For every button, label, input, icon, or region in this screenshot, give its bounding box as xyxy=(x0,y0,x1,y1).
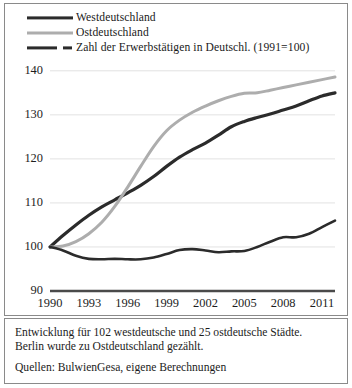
y-axis-tick-label: 120 xyxy=(13,151,43,166)
y-axis-tick-label: 110 xyxy=(13,195,43,210)
legend-label-erwerb: Zahl der Erwerbstätigen in Deutschl. (19… xyxy=(76,41,309,54)
figure-root: 9010011012013014019901993199619992002200… xyxy=(0,0,352,388)
chart-legend: Westdeutschland Ostdeutschland Zahl der … xyxy=(27,10,345,56)
chart-panel: 9010011012013014019901993199619992002200… xyxy=(4,3,348,316)
x-axis-tick-label: 2002 xyxy=(186,296,224,311)
x-axis-tick-label: 2008 xyxy=(264,296,302,311)
x-axis-tick-label: 1996 xyxy=(109,296,147,311)
series-line-0 xyxy=(50,93,335,247)
series-line-1 xyxy=(50,77,335,247)
y-axis-tick-label: 100 xyxy=(13,239,43,254)
x-axis-tick-label: 1999 xyxy=(148,296,186,311)
legend-line-swatch-ost-icon xyxy=(27,26,73,40)
y-axis-tick-label: 130 xyxy=(13,107,43,122)
x-axis-tick-label: 1993 xyxy=(70,296,108,311)
footnote-panel: Entwicklung für 102 westdeutsche und 25 … xyxy=(4,318,348,384)
x-axis-tick-label: 2005 xyxy=(225,296,263,311)
legend-item-westdeutschland: Westdeutschland xyxy=(27,10,345,25)
legend-item-erwerbstaetige: Zahl der Erwerbstätigen in Deutschl. (19… xyxy=(27,40,345,55)
legend-item-ostdeutschland: Ostdeutschland xyxy=(27,25,345,40)
legend-label-ost: Ostdeutschland xyxy=(76,26,149,39)
x-axis-tick-label: 1990 xyxy=(31,296,69,311)
x-axis-tick-label: 2011 xyxy=(303,296,341,311)
series-line-2 xyxy=(50,221,335,260)
footnote-description: Entwicklung für 102 westdeutsche und 25 … xyxy=(15,326,341,355)
legend-dashed-swatch-erwerb-icon xyxy=(27,41,73,55)
y-axis-tick-label: 140 xyxy=(13,63,43,78)
legend-line-swatch-west-icon xyxy=(27,11,73,25)
footnote-source: Quellen: BulwienGesa, eigene Berechnunge… xyxy=(15,361,341,375)
legend-label-west: Westdeutschland xyxy=(76,11,156,24)
